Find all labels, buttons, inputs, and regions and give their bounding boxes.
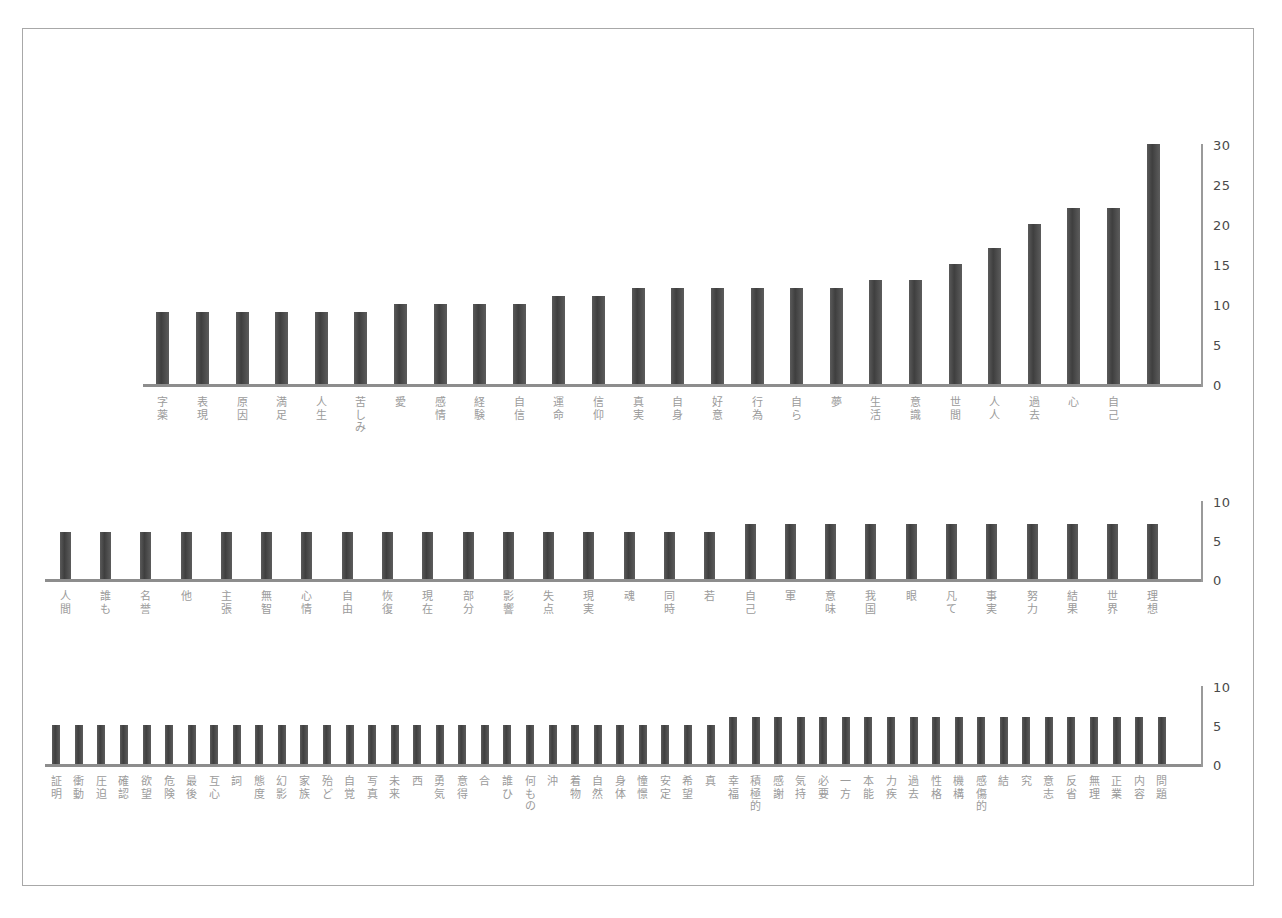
x-axis-category-label: 自覚 <box>341 776 359 801</box>
bar <box>100 532 111 579</box>
bar <box>661 725 669 764</box>
x-axis-category-label: 問題 <box>1153 776 1171 801</box>
bar <box>592 296 605 384</box>
x-axis-baseline <box>143 384 1203 387</box>
x-axis-category-label: 合 <box>476 776 494 789</box>
bar <box>300 725 308 764</box>
bar <box>583 532 594 579</box>
x-axis-category-label: 自然 <box>589 776 607 801</box>
x-axis-category-label: 最後 <box>183 776 201 801</box>
bar <box>181 532 192 579</box>
bar <box>275 312 288 384</box>
bar <box>594 725 602 764</box>
x-axis-category-label: 字薬 <box>151 397 175 422</box>
x-axis-category-label: 若 <box>699 591 721 604</box>
bar <box>797 717 805 764</box>
x-axis-category-label: 人間 <box>54 591 76 616</box>
bar <box>869 280 882 384</box>
x-axis-category-label: 人人 <box>983 397 1007 422</box>
x-axis-category-label: 行為 <box>745 397 769 422</box>
bar <box>745 524 756 579</box>
x-axis-category-label: 眼 <box>900 591 922 604</box>
x-axis-category-label: 過去 <box>1022 397 1046 422</box>
bar <box>434 304 447 384</box>
y-axis-line <box>1201 501 1203 582</box>
bar <box>1135 717 1143 764</box>
bar <box>977 717 985 764</box>
bar <box>526 725 534 764</box>
y-axis-tick-label: 0 <box>1213 759 1222 772</box>
bar <box>1067 208 1080 384</box>
bar <box>887 717 895 764</box>
y-axis-tick-label: 5 <box>1213 535 1222 548</box>
bar <box>704 532 715 579</box>
bar <box>75 725 83 764</box>
x-axis-category-label: 真 <box>702 776 720 789</box>
x-axis-category-label: 現実 <box>578 591 600 616</box>
y-axis-tick-label: 20 <box>1213 219 1231 232</box>
x-axis-category-label: 互心 <box>205 776 223 801</box>
x-axis-category-label: 一方 <box>837 776 855 801</box>
y-axis-tick-label: 10 <box>1213 681 1231 694</box>
bar <box>790 288 803 384</box>
bar <box>188 725 196 764</box>
bar <box>463 532 474 579</box>
x-axis-category-label: 幸福 <box>724 776 742 801</box>
x-axis-category-label: 機構 <box>950 776 968 801</box>
bar <box>255 725 263 764</box>
bar-chart-1: 051015202530字薬表現原因満足人生苦しみ愛感情経験自信運命信仰真実自身… <box>23 99 1253 439</box>
bar <box>910 717 918 764</box>
x-axis-category-label: 自ら <box>785 397 809 422</box>
bar <box>552 296 565 384</box>
bar <box>549 725 557 764</box>
bar <box>624 532 635 579</box>
x-axis-category-label: 本能 <box>859 776 877 801</box>
bar <box>354 312 367 384</box>
x-axis-category-label: 沖 <box>544 776 562 789</box>
x-axis-category-label: 安定 <box>656 776 674 801</box>
x-axis-category-label: 夢 <box>824 397 848 410</box>
bar <box>156 312 169 384</box>
bar <box>707 725 715 764</box>
bar <box>301 532 312 579</box>
x-axis-baseline <box>45 764 1203 767</box>
bar <box>932 717 940 764</box>
x-axis-category-label: 誰も <box>94 591 116 616</box>
x-axis-category-label: 世間 <box>943 397 967 422</box>
bar <box>513 304 526 384</box>
x-axis-category-label: 結果 <box>1061 591 1083 616</box>
x-axis-category-label: 着物 <box>566 776 584 801</box>
y-axis-tick-label: 0 <box>1213 379 1222 392</box>
bar <box>346 725 354 764</box>
bar <box>664 532 675 579</box>
bar <box>571 725 579 764</box>
x-axis-category-label: 希望 <box>679 776 697 801</box>
bar <box>60 532 71 579</box>
x-axis-category-label: 自由 <box>336 591 358 616</box>
x-axis-category-label: 原因 <box>230 397 254 422</box>
bar <box>278 725 286 764</box>
bar <box>391 725 399 764</box>
bar <box>342 532 353 579</box>
bar <box>1045 717 1053 764</box>
bar <box>233 725 241 764</box>
x-axis-category-label: 反省 <box>1062 776 1080 801</box>
x-axis-category-label: 西 <box>408 776 426 789</box>
x-axis-category-label: 同時 <box>658 591 680 616</box>
page-frame: 051015202530字薬表現原因満足人生苦しみ愛感情経験自信運命信仰真実自身… <box>22 28 1254 886</box>
bar <box>368 725 376 764</box>
bar <box>1147 524 1158 579</box>
bar <box>315 312 328 384</box>
bar <box>210 725 218 764</box>
x-axis-category-label: 感情 <box>428 397 452 422</box>
bar <box>906 524 917 579</box>
x-axis-category-label: 好意 <box>705 397 729 422</box>
bar <box>1090 717 1098 764</box>
bar <box>458 725 466 764</box>
y-axis-tick-label: 10 <box>1213 299 1231 312</box>
x-axis-category-label: 事実 <box>981 591 1003 616</box>
x-axis-category-label: 自己 <box>739 591 761 616</box>
bar <box>632 288 645 384</box>
x-axis-category-label: 気持 <box>792 776 810 801</box>
x-axis-category-label: 自信 <box>507 397 531 422</box>
